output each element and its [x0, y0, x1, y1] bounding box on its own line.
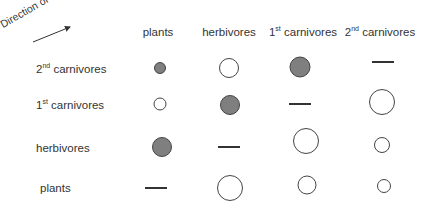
filled-circle-icon [154, 62, 166, 74]
row-header-carn2: 2nd carnivores [36, 63, 106, 75]
interaction-matrix-diagram: Direction of impact plantsherbivores1st … [0, 0, 422, 209]
open-circle-icon [298, 176, 317, 195]
column-header-carn1: 1st carnivores [269, 26, 337, 38]
column-header-plants: plants [143, 26, 174, 38]
open-circle-icon [369, 89, 395, 115]
filled-circle-icon [220, 95, 240, 115]
label-text: plants [143, 26, 174, 38]
no-effect-dash-icon [218, 146, 240, 148]
filled-circle-icon [152, 137, 172, 157]
open-circle-icon [154, 98, 167, 111]
no-effect-dash-icon [372, 61, 394, 63]
label-text-rest: carnivores [281, 26, 337, 38]
open-circle-icon [293, 128, 319, 154]
label-text-rest: carnivores [50, 63, 106, 75]
open-circle-icon [217, 175, 243, 201]
column-header-herbivores: herbivores [202, 26, 256, 38]
label-text: herbivores [202, 26, 256, 38]
row-header-herbivores: herbivores [36, 142, 90, 154]
label-text: plants [40, 182, 71, 194]
row-header-plants: plants [40, 182, 71, 194]
label-text-rest: carnivores [359, 26, 415, 38]
filled-circle-icon [290, 57, 311, 78]
no-effect-dash-icon [145, 187, 167, 189]
open-circle-icon [374, 137, 390, 153]
open-circle-icon [377, 179, 391, 193]
label-text-rest: carnivores [48, 99, 104, 111]
no-effect-dash-icon [289, 103, 311, 105]
open-circle-icon [219, 58, 239, 78]
row-header-carn1: 1st carnivores [36, 99, 104, 111]
label-text: herbivores [36, 142, 90, 154]
column-header-carn2: 2nd carnivores [345, 26, 415, 38]
